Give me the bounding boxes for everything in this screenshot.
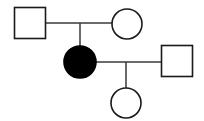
individual-iii-1-female-unaffected-circle[interactable] — [111, 88, 141, 118]
pedigree-canvas — [0, 0, 204, 121]
pedigree-chart — [0, 0, 204, 121]
individual-ii-1-female-affected-circle[interactable] — [64, 46, 96, 78]
individual-ii-2-male-unaffected-square[interactable] — [162, 46, 193, 77]
individual-i-1-male-unaffected-square[interactable] — [15, 8, 46, 39]
individual-i-2-female-unaffected-circle[interactable] — [112, 9, 142, 39]
